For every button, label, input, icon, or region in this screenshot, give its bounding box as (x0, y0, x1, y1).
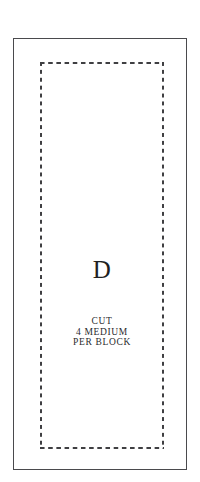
cutting-line-border: D CUT 4 MEDIUM PER BLOCK (13, 38, 187, 470)
seam-line-border: D CUT 4 MEDIUM PER BLOCK (40, 62, 164, 449)
piece-letter: D (40, 257, 164, 283)
instruction-line-3: PER BLOCK (40, 337, 164, 348)
instruction-line-1: CUT (40, 316, 164, 327)
seam-line-right-edge (162, 62, 164, 449)
seam-line-top-edge (40, 62, 164, 64)
seam-line-left-edge (40, 62, 42, 449)
cutting-instructions: CUT 4 MEDIUM PER BLOCK (40, 316, 164, 348)
instruction-line-2: 4 MEDIUM (40, 327, 164, 338)
seam-line-bottom-edge (40, 447, 164, 449)
pattern-sheet: D CUT 4 MEDIUM PER BLOCK (0, 0, 200, 482)
